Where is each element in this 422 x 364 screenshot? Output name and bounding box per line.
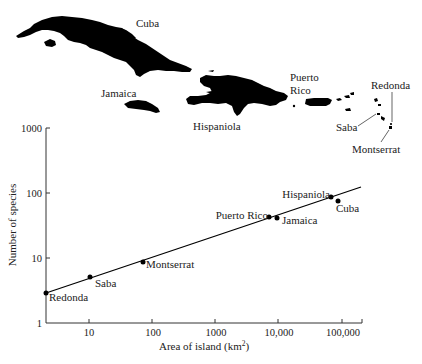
x-tick-label-100000: 100,000: [326, 327, 360, 338]
st-kitts-island: [381, 116, 385, 121]
y-axis-label: Number of species: [6, 184, 18, 266]
hispaniola-silhouette: [186, 75, 288, 116]
point-montserrat: [141, 260, 146, 265]
leader-line-montserrat: [381, 130, 389, 142]
x-tick-label-10: 10: [84, 327, 95, 338]
map-label-hispaniola: Hispaniola: [193, 120, 241, 132]
x-tick-label-10000: 10,000: [265, 327, 294, 338]
puerto-rico-silhouette: [305, 98, 332, 106]
map-label-redonda: Redonda: [371, 79, 410, 91]
point-saba: [88, 275, 93, 280]
x-axis-label-text: Area of island (km: [159, 340, 242, 353]
mona-island: [293, 105, 295, 107]
y-tick-label-100: 100: [26, 188, 42, 199]
virgin-islands-2: [344, 95, 350, 98]
caribbean-map: [16, 16, 392, 129]
vieques-island: [345, 108, 351, 111]
point-label-redonda: Redonda: [49, 291, 88, 303]
x-tick-label-100: 100: [145, 327, 161, 338]
point-jamaica: [275, 216, 280, 221]
chart: 1000 100 10 1 10 100 1000 10,000 100,000…: [6, 123, 362, 353]
anguilla-island: [374, 98, 378, 102]
montserrat-island: [389, 126, 392, 129]
y-tick-label-10: 10: [32, 253, 43, 264]
map-label-cuba: Cuba: [136, 17, 159, 29]
x-tick-label-1000: 1000: [206, 327, 227, 338]
redonda-island: [390, 123, 392, 125]
regression-line: [46, 187, 361, 293]
map-label-puerto-rico-2: Rico: [290, 84, 311, 96]
st-martin-island: [378, 104, 381, 106]
point-label-montserrat: Montserrat: [146, 258, 194, 270]
map-label-puerto-rico-1: Puerto: [290, 71, 319, 83]
map-label-montserrat: Montserrat: [352, 143, 400, 155]
y-tick-label-1: 1: [37, 318, 42, 329]
tortuga-island: [208, 70, 214, 72]
point-labels: Redonda Saba Montserrat Puerto Rico Jama…: [49, 188, 359, 303]
virgin-islands-3: [350, 92, 354, 95]
virgin-islands: [336, 98, 342, 101]
point-redonda: [44, 291, 49, 296]
map-label-jamaica: Jamaica: [101, 87, 137, 99]
point-label-puerto-rico: Puerto Rico: [216, 209, 269, 221]
leader-line-saba: [358, 114, 376, 126]
point-label-cuba: Cuba: [336, 202, 359, 214]
x-ticks: 10 100 1000 10,000 100,000: [84, 319, 360, 338]
jamaica-silhouette: [124, 100, 160, 113]
data-points: [44, 195, 341, 296]
y-tick-label-1000: 1000: [21, 123, 42, 134]
cuba-silhouette: [16, 16, 192, 77]
x-axis-label-close: ): [246, 340, 250, 353]
species-area-figure: Cuba Jamaica Hispaniola Puerto Rico Redo…: [0, 0, 422, 364]
saba-island: [377, 113, 380, 115]
map-label-saba: Saba: [336, 121, 358, 133]
point-label-jamaica: Jamaica: [282, 214, 318, 226]
point-label-hispaniola: Hispaniola: [282, 188, 330, 200]
x-axis-label: Area of island (km2): [159, 339, 250, 353]
point-label-saba: Saba: [95, 277, 117, 289]
isle-of-youth-silhouette: [44, 39, 56, 47]
